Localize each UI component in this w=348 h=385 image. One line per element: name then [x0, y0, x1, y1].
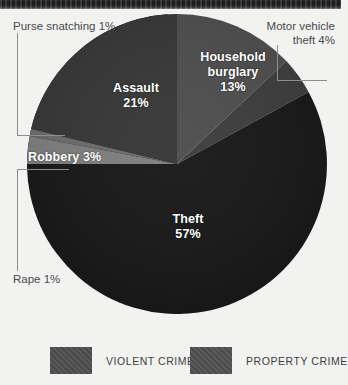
callout-motor-line2: theft 4%: [293, 34, 335, 46]
leader-line-motor-vehicle-vertical: [277, 45, 278, 81]
slice-label-assault: Assault 21%: [82, 81, 190, 111]
slice-label-assault-pct: 21%: [123, 96, 148, 110]
slice-label-robbery: Robbery 3%: [28, 150, 138, 165]
legend-item-property-crime: PROPERTY CRIME: [190, 347, 348, 374]
callout-rape: Rape 1%: [13, 272, 103, 286]
callout-motor-line1: Motor vehicle: [267, 20, 335, 32]
slice-label-household-name: Household: [200, 50, 265, 64]
slice-label-household-burglary: Household burglary 13%: [186, 50, 280, 94]
legend-swatch-violent-crime: [50, 347, 92, 374]
slice-label-theft-pct: 57%: [175, 227, 200, 241]
leader-line-purse-snatching-vertical: [17, 33, 18, 136]
callout-motor-vehicle-theft: Motor vehicle theft 4%: [243, 19, 335, 48]
legend-item-violent-crime: VIOLENT CRIME: [50, 347, 195, 374]
leader-line-purse-snatching-horizontal: [17, 135, 65, 136]
leader-line-motor-vehicle-horizontal: [278, 80, 327, 81]
leader-line-rape-vertical: [17, 169, 18, 271]
legend-label-property-crime: PROPERTY CRIME: [246, 355, 348, 367]
slice-label-assault-name: Assault: [113, 81, 159, 95]
slice-label-household-pct: 13%: [220, 80, 245, 94]
slice-label-theft-name: Theft: [172, 212, 203, 226]
scan-artifact-band: [0, 0, 341, 9]
slice-label-household-name2: burglary: [208, 65, 259, 79]
callout-purse-snatching: Purse snatching 1%: [13, 19, 173, 33]
legend-label-violent-crime: VIOLENT CRIME: [106, 355, 195, 367]
slice-label-theft: Theft 57%: [142, 212, 234, 242]
chart-legend: VIOLENT CRIME PROPERTY CRIME: [0, 345, 341, 385]
leader-line-rape-horizontal: [17, 169, 69, 170]
legend-swatch-property-crime: [190, 347, 232, 374]
